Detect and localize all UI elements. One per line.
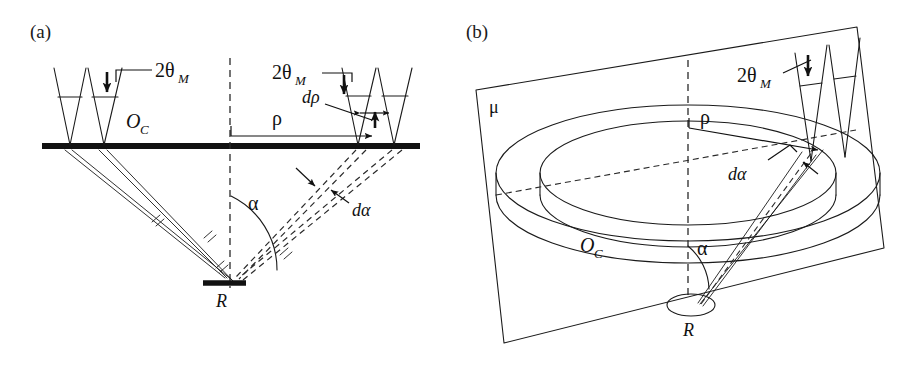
hatch-tick-4	[280, 248, 292, 259]
d-alpha-label-a: dα	[352, 200, 371, 220]
dashed-ray-4	[243, 150, 402, 280]
d-alpha-arrow-upper	[296, 168, 315, 186]
source-label-b: R	[682, 320, 694, 340]
source-ellipse-b	[667, 294, 715, 316]
d-rho-leader	[325, 104, 372, 120]
right-crystal-2-wall-left	[378, 68, 394, 145]
figure-container: (a) 2θ M O	[0, 0, 920, 365]
solid-ray-1	[65, 150, 225, 278]
left-crystal-1-wall-right	[70, 68, 86, 145]
rho-label-a: ρ	[272, 107, 282, 130]
solid-ray-2	[72, 150, 232, 280]
panel-a: (a) 2θ M O	[30, 21, 420, 311]
panel-a-label: (a)	[30, 21, 51, 43]
crystal-plane-label-b: O	[580, 234, 594, 256]
panel-b: (b) μ ρ	[466, 21, 884, 343]
solid-ray-bundle-a	[65, 150, 233, 281]
left-crystal-2-wall-left	[88, 68, 104, 145]
d-rho-annotation-a	[325, 104, 389, 128]
right-crystal-1-wall-right	[358, 68, 376, 145]
crystal-plane-subscript-b: C	[594, 246, 603, 261]
panel-b-label: (b)	[466, 21, 488, 43]
dashed-ray-2	[239, 150, 366, 279]
two-theta-left-label: 2θ	[155, 59, 175, 81]
two-theta-left-annotation-a	[107, 70, 152, 92]
d-alpha-annotation-a	[296, 168, 349, 203]
b-crystal-1-wall-right	[811, 45, 827, 161]
b-ray-edge-2	[703, 155, 816, 306]
b-crystal-2-wall-right	[845, 38, 860, 157]
rho-measure-a	[231, 126, 372, 136]
solid-ray-4	[107, 150, 233, 281]
two-theta-right-label: 2θ	[272, 61, 292, 83]
d-alpha-arrow-lower	[331, 190, 349, 203]
right-crystal-2-wall-right	[394, 68, 412, 145]
dashed-ray-bundle-a	[236, 150, 402, 280]
ray-wedge-b	[698, 150, 823, 306]
b-crystal-2-crossbar	[834, 76, 856, 79]
hatch-tick-2	[204, 231, 216, 242]
two-theta-subscript-b: M	[759, 76, 772, 91]
crystal-plane-subscript-a: C	[140, 122, 149, 137]
two-theta-right-leader	[322, 73, 352, 82]
alpha-label-b: α	[697, 237, 708, 259]
two-theta-right-subscript: M	[294, 73, 307, 88]
hatch-tick-3	[216, 261, 228, 272]
source-label-a: R	[215, 291, 227, 311]
two-theta-left-subscript: M	[177, 71, 190, 86]
solid-ray-3	[99, 150, 227, 278]
diagram-svg: (a) 2θ M O	[0, 0, 920, 365]
alpha-label-a: α	[248, 192, 259, 214]
annulus-diameter-dashed	[496, 130, 856, 195]
two-theta-right-annotation-a	[322, 73, 352, 94]
d-rho-label: dρ	[302, 87, 320, 107]
b-crystal-2-wall-left	[829, 45, 845, 157]
b-crystal-1-crossbar	[800, 83, 822, 86]
d-alpha-leader-b	[768, 145, 797, 160]
crystal-group-b	[795, 38, 860, 161]
b-ray-edge-1	[698, 152, 802, 303]
d-alpha-label-b: dα	[728, 164, 747, 184]
plane-mu-label: μ	[489, 97, 499, 117]
crystal-plane-label-a: O	[126, 110, 140, 132]
left-crystal-group-a	[54, 68, 122, 145]
two-theta-label-b: 2θ	[737, 64, 757, 86]
rho-label-b: ρ	[700, 106, 710, 129]
left-crystal-1-wall-left	[54, 68, 70, 145]
